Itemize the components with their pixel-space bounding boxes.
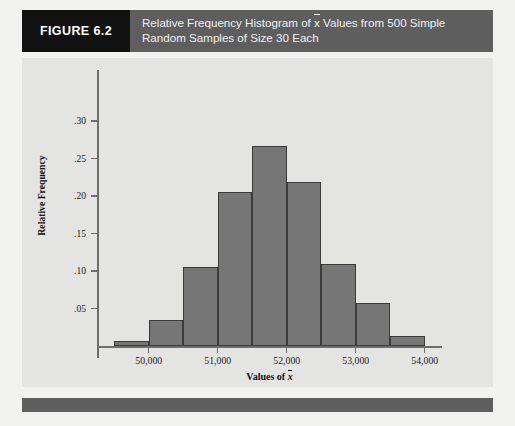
histogram-bar bbox=[356, 303, 391, 346]
histogram-bar bbox=[183, 267, 218, 347]
histogram-bar bbox=[321, 264, 356, 347]
x-axis-tick bbox=[217, 346, 218, 353]
x-axis-title-prefix: Values of bbox=[246, 371, 287, 382]
x-axis-tick-label: 50,000 bbox=[114, 355, 184, 366]
y-axis-tick bbox=[91, 270, 99, 271]
x-axis-tick bbox=[424, 346, 425, 353]
caption-text-part2: Values from 500 Simple bbox=[320, 16, 445, 29]
histogram-bar bbox=[149, 320, 184, 346]
y-axis-tick-label: .25 bbox=[40, 153, 86, 164]
y-axis-tick-label: .30 bbox=[40, 115, 86, 126]
y-axis-tick bbox=[91, 158, 99, 159]
histogram-bar bbox=[390, 336, 425, 346]
figure-caption: Relative Frequency Histogram of x Values… bbox=[130, 10, 493, 52]
histogram-bar bbox=[252, 146, 287, 346]
caption-xbar-symbol: x bbox=[314, 16, 320, 31]
y-axis-tick-label: .20 bbox=[40, 190, 86, 201]
y-axis-tick-label: .15 bbox=[40, 228, 86, 239]
x-axis-tick bbox=[355, 346, 356, 353]
y-axis-tick bbox=[91, 195, 99, 196]
x-axis-tick bbox=[286, 346, 287, 353]
y-axis-tick bbox=[91, 233, 99, 234]
chart-panel: Relative Frequency Values of x .05.10.15… bbox=[22, 58, 493, 387]
figure-container: FIGURE 6.2 Relative Frequency Histogram … bbox=[0, 0, 515, 426]
y-axis-tick bbox=[91, 308, 99, 309]
y-axis-tick-label: .10 bbox=[40, 265, 86, 276]
y-axis-tick bbox=[91, 120, 99, 121]
x-axis-tick-label: 51,000 bbox=[183, 355, 253, 366]
x-axis-title: Values of x bbox=[97, 371, 442, 382]
figure-footer-bar bbox=[22, 398, 493, 412]
figure-header: FIGURE 6.2 Relative Frequency Histogram … bbox=[22, 10, 493, 52]
x-axis-tick-label: 52,000 bbox=[252, 355, 322, 366]
y-axis-tick-label: .05 bbox=[40, 303, 86, 314]
figure-number-label: FIGURE 6.2 bbox=[40, 24, 112, 38]
x-axis-xbar-symbol: x bbox=[288, 371, 293, 382]
x-axis-tick-label: 53,000 bbox=[321, 355, 391, 366]
caption-text-part1: Relative Frequency Histogram of bbox=[142, 16, 314, 29]
x-axis-tick-label: 54,000 bbox=[390, 355, 460, 366]
histogram-bar bbox=[218, 192, 253, 347]
histogram-plot: Relative Frequency Values of x .05.10.15… bbox=[22, 58, 493, 387]
caption-text-line2: Random Samples of Size 30 Each bbox=[142, 31, 319, 44]
y-axis-line bbox=[97, 70, 99, 358]
x-axis-tick bbox=[148, 346, 149, 353]
histogram-bar bbox=[114, 341, 149, 346]
figure-number-block: FIGURE 6.2 bbox=[22, 10, 130, 52]
histogram-bar bbox=[287, 182, 322, 346]
